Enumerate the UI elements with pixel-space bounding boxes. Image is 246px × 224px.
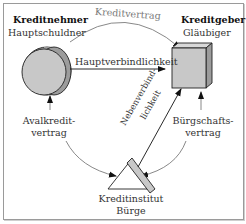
guarantor-subtitle-label: Bürge <box>116 205 145 216</box>
debtor-role-label: Kreditnehmer <box>13 14 88 25</box>
debtor-disc-icon <box>22 47 71 95</box>
aval-contract-label-line1: Avalkredit- <box>23 115 76 126</box>
creditor-role-label: Kreditgeber <box>181 14 245 25</box>
debtor-subtitle-label: Hauptschuldner <box>8 27 86 38</box>
main-liability-label: Hauptverbindlichkeit <box>75 56 178 67</box>
credit-contract-arrow <box>70 22 180 48</box>
surety-contract-label-line2: vertrag <box>185 127 221 138</box>
surety-contract-label-line1: Bürgschafts- <box>172 115 233 126</box>
creditor-cube-icon <box>172 43 212 88</box>
guarantor-role-label: Kreditinstitut <box>99 193 164 204</box>
creditor-subtitle-label: Gläubiger <box>183 27 231 38</box>
aval-contract-label-line2: vertrag <box>31 127 67 138</box>
